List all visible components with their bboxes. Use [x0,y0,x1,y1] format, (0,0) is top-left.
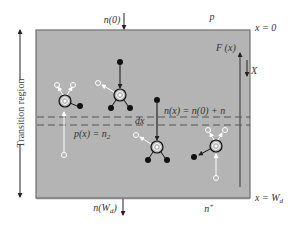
ionization-diagram: Transition region n(0) p x = 0 F (x) X d… [0,0,296,226]
label-dx: dx [135,115,145,126]
label-axis-x: X [250,65,258,76]
label-n0: n(0) [104,14,121,26]
region-label: Transition region [15,79,26,148]
label-p: p [209,11,215,22]
label-n-eq: n(x) = n(0) + n [164,105,225,117]
label-nwd: n(Wd) [93,202,117,215]
label-n-plus: n+ [204,202,214,214]
label-x0: x = 0 [254,22,276,33]
label-xwd: x = Wd [254,192,284,205]
label-field: F (x) [215,42,236,54]
